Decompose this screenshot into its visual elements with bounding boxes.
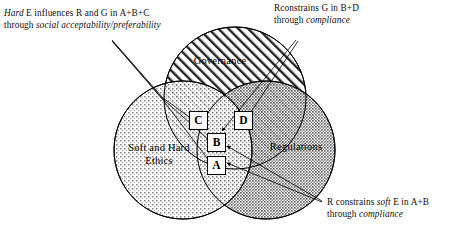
region-box-c: C — [189, 111, 208, 130]
annotation-ethics-constraint-line2-pre: through — [327, 209, 359, 219]
region-box-d: D — [234, 111, 253, 130]
annotation-ethics-constraint-line1-emphasis: soft — [377, 197, 391, 207]
circle-label-governance-text: Governance — [194, 55, 247, 66]
annotation-ethics-influence-line2-emphasis: social acceptability/preferability — [36, 20, 161, 30]
circle-label-ethics-line2: Ethics — [107, 155, 211, 168]
region-box-d-label: D — [239, 115, 247, 127]
venn-diagram-figure: Governance Soft and Hard Ethics Regulati… — [0, 0, 450, 237]
annotation-ethics-constraint-line1: R constrains soft E in A+B — [327, 197, 429, 209]
region-box-c-label: C — [194, 115, 202, 127]
annotation-ethics-influence-line1: Hard E influences R and G in A+B+C — [4, 8, 161, 20]
circle-label-governance: Governance — [180, 55, 260, 68]
annotation-ethics-constraint-line2-emphasis: compliance — [359, 209, 403, 219]
region-box-a: A — [207, 156, 226, 175]
annotation-governance-constraint-line2: through compliance — [274, 15, 359, 27]
annotation-governance-constraint-line1: Rconstrains G in B+D — [274, 3, 359, 15]
region-box-b-label: B — [213, 137, 221, 149]
region-box-b: B — [207, 133, 226, 152]
circle-label-ethics: Soft and Hard Ethics — [107, 142, 211, 167]
circle-label-ethics-line1: Soft and Hard — [107, 142, 211, 155]
annotation-ethics-influence: Hard E influences R and G in A+B+C throu… — [4, 8, 161, 31]
annotation-ethics-influence-line2: through social acceptability/preferabili… — [4, 20, 161, 32]
annotation-ethics-constraint-line2: through compliance — [327, 209, 429, 221]
annotation-ethics-constraint-line1-pre: R constrains — [327, 197, 377, 207]
annotation-ethics-influence-line1-emphasis: Hard — [4, 8, 24, 18]
annotation-governance-constraint-line2-pre: through — [274, 15, 306, 25]
circle-label-regulations-text: Regulations — [270, 141, 322, 152]
annotation-ethics-influence-line2-pre: through — [4, 20, 36, 30]
annotation-governance-constraint: Rconstrains G in B+D through compliance — [274, 3, 359, 26]
annotation-ethics-constraint: R constrains soft E in A+B through compl… — [327, 197, 429, 220]
region-box-a-label: A — [212, 160, 220, 172]
annotation-governance-constraint-line2-emphasis: compliance — [306, 15, 350, 25]
circle-label-regulations: Regulations — [258, 141, 334, 154]
annotation-ethics-influence-line1-rest: E influences R and G in A+B+C — [24, 8, 150, 18]
annotation-ethics-constraint-line1-post: E in A+B — [391, 197, 429, 207]
